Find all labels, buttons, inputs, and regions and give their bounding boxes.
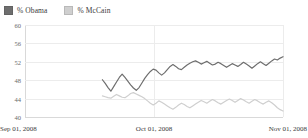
y-tick-44: 44: [15, 95, 22, 102]
gridline-40: [25, 117, 283, 118]
plot-area: 605652484440 Sep 01, 2008 Oct 01, 2008 N…: [25, 25, 283, 117]
x-tick-nov: Nov 01, 2008: [269, 125, 307, 133]
y-tick-60: 60: [15, 22, 22, 29]
y-tick-40: 40: [15, 114, 22, 121]
legend-item-mccain[interactable]: % McCain: [64, 6, 110, 15]
legend-swatch-obama: [4, 6, 13, 15]
y-tick-56: 56: [15, 40, 22, 47]
x-tick-sep: Sep 01, 2008: [0, 125, 37, 133]
vertical-gridline-nov: [283, 25, 284, 117]
legend-item-obama[interactable]: % Obama: [4, 6, 47, 15]
line-chart: % Obama % McCain 605652484440 Sep 01, 20…: [0, 0, 308, 138]
series-line-mccain: [102, 93, 283, 111]
x-tick-oct: Oct 01, 2008: [136, 125, 172, 133]
y-tick-48: 48: [15, 77, 22, 84]
chart-legend: % Obama % McCain: [4, 4, 128, 17]
y-tick-52: 52: [15, 58, 22, 65]
legend-label-obama: % Obama: [17, 6, 47, 15]
series-line-obama: [102, 57, 283, 92]
legend-swatch-mccain: [64, 6, 73, 15]
legend-label-mccain: % McCain: [77, 6, 110, 15]
series-lines: [25, 25, 283, 117]
